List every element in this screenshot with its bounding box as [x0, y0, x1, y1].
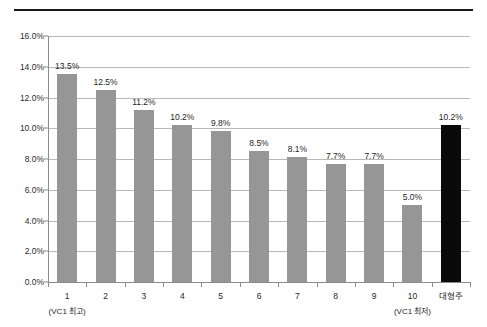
x-axis-category-label: 5: [201, 284, 239, 302]
x-axis-category: 2: [86, 284, 124, 302]
y-axis-tick-label: 12.0%: [0, 93, 44, 103]
y-axis-tick-label: 2.0%: [0, 246, 44, 256]
bar[interactable]: [134, 110, 154, 282]
bar-highlight[interactable]: [441, 125, 461, 282]
bar-value-label: 5.0%: [403, 192, 422, 202]
bar[interactable]: [172, 125, 192, 282]
x-axis-category: 3: [125, 284, 163, 302]
x-axis-category-label: 10: [393, 284, 431, 302]
bar-value-label: 7.7%: [326, 151, 345, 161]
bar-value-label: 7.7%: [364, 151, 383, 161]
bar-value-label: 11.2%: [132, 97, 155, 107]
x-axis-category: 6: [240, 284, 278, 302]
x-axis-category-sublabel: (VC1 최고): [48, 302, 86, 318]
bar-cell[interactable]: 12.5%: [86, 36, 124, 282]
bar-value-label: 8.1%: [288, 144, 307, 154]
x-axis-category: 대형주: [432, 284, 470, 302]
bar[interactable]: [326, 164, 346, 282]
x-axis-category-label: 3: [125, 284, 163, 302]
bar-cell[interactable]: 10.2%: [432, 36, 470, 282]
bar-value-label: 10.2%: [170, 112, 194, 122]
header-divider-rule: [14, 9, 473, 11]
x-axis-category-label: 8: [317, 284, 355, 302]
bars-group: 13.5%12.5%11.2%10.2%9.8%8.5%8.1%7.7%7.7%…: [48, 36, 470, 282]
y-axis-tick-label: 14.0%: [0, 62, 44, 72]
x-axis-category: 5: [201, 284, 239, 302]
bar[interactable]: [287, 157, 307, 282]
x-axis-category-label: 4: [163, 284, 201, 302]
bar-cell[interactable]: 5.0%: [393, 36, 431, 282]
bar-cell[interactable]: 11.2%: [125, 36, 163, 282]
x-axis-category: 8: [317, 284, 355, 302]
y-axis-tick-label: 6.0%: [0, 185, 44, 195]
bar-cell[interactable]: 9.8%: [201, 36, 239, 282]
bar-cell[interactable]: 13.5%: [48, 36, 86, 282]
x-axis-category: 4: [163, 284, 201, 302]
x-axis-category-sublabel: (VC1 최저): [393, 302, 431, 318]
bar[interactable]: [364, 164, 384, 282]
bar[interactable]: [249, 151, 269, 282]
y-axis-tick-label: 16.0%: [0, 31, 44, 41]
bar-cell[interactable]: 8.1%: [278, 36, 316, 282]
bar-value-label: 12.5%: [93, 77, 117, 87]
x-axis-category-label: 6: [240, 284, 278, 302]
y-axis-tick-label: 4.0%: [0, 216, 44, 226]
x-axis-category-label: 대형주: [432, 284, 470, 302]
y-axis-tick-label: 0.0%: [0, 277, 44, 287]
x-axis-category: 7: [278, 284, 316, 302]
bar[interactable]: [96, 90, 116, 282]
bar[interactable]: [402, 205, 422, 282]
bar-cell[interactable]: 10.2%: [163, 36, 201, 282]
y-axis-tick-label: 8.0%: [0, 154, 44, 164]
x-axis-category: 10(VC1 최저): [393, 284, 431, 318]
x-axis-category: 9: [355, 284, 393, 302]
x-axis-category-label: 1: [48, 284, 86, 302]
bar-chart: 0.0%2.0%4.0%6.0%8.0%10.0%12.0%14.0%16.0%…: [0, 14, 487, 327]
bar-value-label: 9.8%: [211, 118, 230, 128]
x-axis-category-label: 2: [86, 284, 124, 302]
bar-cell[interactable]: 8.5%: [240, 36, 278, 282]
x-axis-categories-group: 1(VC1 최고)2345678910(VC1 최저)대형주: [48, 284, 470, 327]
bar-cell[interactable]: 7.7%: [317, 36, 355, 282]
y-axis-tick-label: 10.0%: [0, 123, 44, 133]
bar-value-label: 8.5%: [249, 138, 268, 148]
bar[interactable]: [57, 74, 77, 282]
x-axis-category-label: 7: [278, 284, 316, 302]
cut-off-heading-text: — —— —— —————: [14, 0, 344, 3]
x-axis-line: [48, 282, 471, 283]
x-axis-category: 1(VC1 최고): [48, 284, 86, 318]
bar-value-label: 10.2%: [439, 112, 463, 122]
x-axis-tick-mark: [470, 283, 471, 287]
chart-screenshot: — —— —— ————— 0.0%2.0%4.0%6.0%8.0%10.0%1…: [0, 0, 487, 327]
x-axis-category-label: 9: [355, 284, 393, 302]
bar[interactable]: [211, 131, 231, 282]
bar-cell[interactable]: 7.7%: [355, 36, 393, 282]
bar-value-label: 13.5%: [55, 61, 79, 71]
